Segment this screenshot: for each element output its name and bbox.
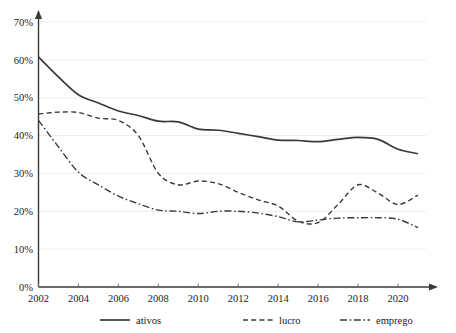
line-chart: 0%10%20%30%40%50%60%70% 2002200420062008…: [0, 0, 456, 333]
x-axis-tick-label: 2006: [108, 293, 129, 304]
x-axis-tick-labels: 2002200420062008201020122014201620182020: [28, 293, 409, 304]
chart-legend: ativoslucroemprego: [100, 315, 413, 326]
y-axis-tick-labels: 0%10%20%30%40%50%60%70%: [14, 17, 34, 293]
x-axis-tick-label: 2010: [188, 293, 209, 304]
y-axis-tick-label: 0%: [19, 282, 33, 293]
y-axis-tick-label: 20%: [14, 206, 34, 217]
y-axis-tick-label: 50%: [14, 92, 34, 103]
x-axis-tick-label: 2012: [228, 293, 249, 304]
legend-label-ativos: ativos: [136, 315, 161, 326]
y-axis-tick-label: 40%: [14, 130, 34, 141]
y-axis-tick-label: 70%: [14, 17, 34, 28]
y-axis-arrow: [35, 10, 42, 19]
chart-canvas: 0%10%20%30%40%50%60%70% 2002200420062008…: [0, 0, 456, 333]
data-series: [39, 57, 419, 228]
x-axis-tick-label: 2002: [28, 293, 49, 304]
x-axis-tick-label: 2014: [268, 293, 290, 304]
y-axis-tick-label: 60%: [14, 55, 34, 66]
series-line-ativos: [39, 57, 419, 154]
legend-label-lucro: lucro: [279, 315, 301, 326]
legend-label-emprego: emprego: [376, 315, 413, 326]
y-axis-tick-label: 30%: [14, 168, 34, 179]
x-axis-tick-label: 2016: [308, 293, 329, 304]
x-axis-arrow: [429, 283, 438, 290]
x-axis-tick-label: 2018: [348, 293, 369, 304]
chart-axes: [35, 10, 438, 291]
series-line-lucro: [39, 112, 419, 224]
gridlines: [39, 22, 427, 249]
x-axis-tick-label: 2004: [68, 293, 90, 304]
y-axis-tick-label: 10%: [14, 244, 34, 255]
x-axis-tick-label: 2020: [388, 293, 409, 304]
x-axis-tick-label: 2008: [148, 293, 169, 304]
